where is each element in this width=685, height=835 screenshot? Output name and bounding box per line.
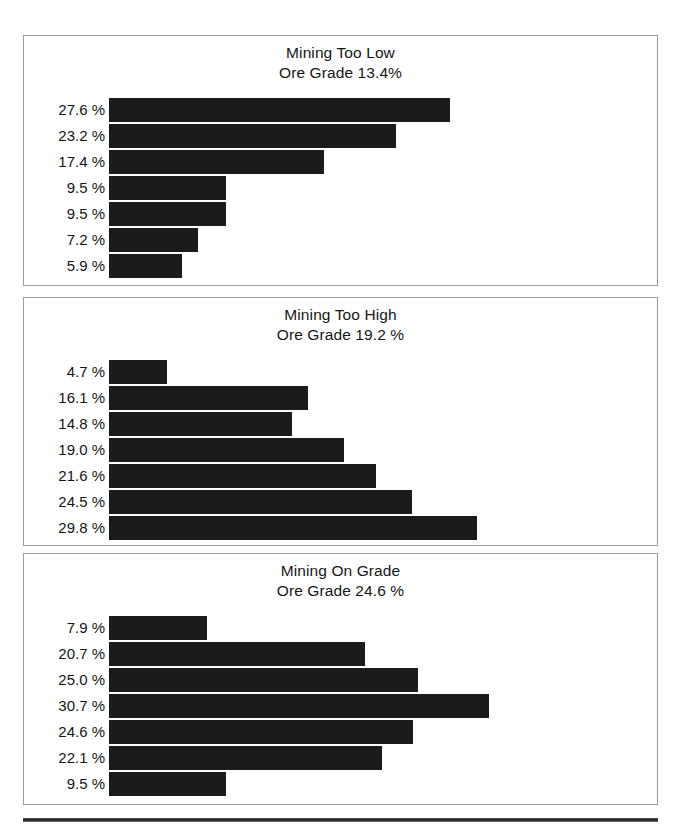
panel-title-line-2: Ore Grade 19.2 % [24,325,657,345]
bar [109,668,418,692]
bar-value-label: 22.1 % [24,746,105,770]
bar-value-label: 21.6 % [24,464,105,488]
bar-row: 9.5 % [24,176,657,200]
bar-row: 9.5 % [24,772,657,796]
bar-track [109,746,653,770]
bar [109,202,226,226]
bar [109,386,308,410]
bar-value-label: 9.5 % [24,176,105,200]
bar [109,694,489,718]
bar-track [109,228,653,252]
bar [109,412,292,436]
bar-row: 14.8 % [24,412,657,436]
bar-value-label: 7.9 % [24,616,105,640]
bar-track [109,516,653,540]
bar-track [109,150,653,174]
bar-row: 16.1 % [24,386,657,410]
bar [109,228,198,252]
bar-track [109,98,653,122]
bar-value-label: 17.4 % [24,150,105,174]
bar [109,616,207,640]
bar-row: 21.6 % [24,464,657,488]
panel-title-line-1: Mining Too High [24,305,657,325]
bar-track [109,412,653,436]
bar-value-label: 7.2 % [24,228,105,252]
bar-track [109,386,653,410]
bar [109,438,344,462]
bar-value-label: 23.2 % [24,124,105,148]
bar [109,516,477,540]
bar-row: 20.7 % [24,642,657,666]
bar-value-label: 9.5 % [24,772,105,796]
panel-title: Mining Too Low Ore Grade 13.4% [24,43,657,83]
bar-row: 7.2 % [24,228,657,252]
bar-row: 29.8 % [24,516,657,540]
bar-row: 22.1 % [24,746,657,770]
bar-value-label: 29.8 % [24,516,105,540]
bar-value-label: 14.8 % [24,412,105,436]
bar-row: 17.4 % [24,150,657,174]
bar-row: 30.7 % [24,694,657,718]
bar-track [109,720,653,744]
bar-value-label: 25.0 % [24,668,105,692]
bar-row: 24.6 % [24,720,657,744]
panel-title-line-1: Mining On Grade [24,561,657,581]
panel-title: Mining On Grade Ore Grade 24.6 % [24,561,657,601]
panel-title-line-2: Ore Grade 13.4% [24,63,657,83]
bar-track [109,464,653,488]
bar [109,150,324,174]
bar-track [109,360,653,384]
figure-page: Mining Too Low Ore Grade 13.4% 27.6 %23.… [0,0,685,835]
bar-value-label: 20.7 % [24,642,105,666]
bar [109,490,412,514]
bar-track [109,694,653,718]
bar [109,464,376,488]
bar-value-label: 27.6 % [24,98,105,122]
bar-track [109,124,653,148]
bar-value-label: 5.9 % [24,254,105,278]
bar [109,720,413,744]
panel-title-line-2: Ore Grade 24.6 % [24,581,657,601]
bar [109,98,450,122]
bar-track [109,438,653,462]
bar [109,360,167,384]
chart-panel-mining-on-grade: Mining On Grade Ore Grade 24.6 % 7.9 %20… [23,553,658,805]
bar-value-label: 19.0 % [24,438,105,462]
bar-row: 19.0 % [24,438,657,462]
bar-row: 4.7 % [24,360,657,384]
bar-track [109,772,653,796]
bar [109,254,182,278]
bar-track [109,668,653,692]
bar [109,746,382,770]
bar-row: 5.9 % [24,254,657,278]
footer-divider [23,818,658,822]
bar-row: 24.5 % [24,490,657,514]
bar-track [109,616,653,640]
bar [109,642,365,666]
bar-value-label: 24.5 % [24,490,105,514]
bar-plot-area: 4.7 %16.1 %14.8 %19.0 %21.6 %24.5 %29.8 … [24,360,657,541]
bar-value-label: 16.1 % [24,386,105,410]
bar-plot-area: 7.9 %20.7 %25.0 %30.7 %24.6 %22.1 %9.5 % [24,616,657,800]
bar [109,176,226,200]
bar-value-label: 30.7 % [24,694,105,718]
bar-track [109,642,653,666]
bar-track [109,176,653,200]
bar [109,772,226,796]
bar-row: 25.0 % [24,668,657,692]
bar-value-label: 24.6 % [24,720,105,744]
bar-track [109,254,653,278]
chart-panel-mining-too-high: Mining Too High Ore Grade 19.2 % 4.7 %16… [23,297,658,546]
bar-row: 7.9 % [24,616,657,640]
chart-panel-mining-too-low: Mining Too Low Ore Grade 13.4% 27.6 %23.… [23,35,658,286]
bar-plot-area: 27.6 %23.2 %17.4 %9.5 %9.5 %7.2 %5.9 % [24,98,657,281]
bar-row: 9.5 % [24,202,657,226]
bar-track [109,490,653,514]
bar [109,124,396,148]
bar-track [109,202,653,226]
bar-row: 27.6 % [24,98,657,122]
bar-row: 23.2 % [24,124,657,148]
bar-value-label: 9.5 % [24,202,105,226]
panel-title: Mining Too High Ore Grade 19.2 % [24,305,657,345]
bar-value-label: 4.7 % [24,360,105,384]
